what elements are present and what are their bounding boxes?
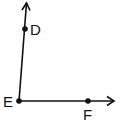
point-d — [22, 26, 28, 32]
label-e: E — [3, 93, 13, 110]
point-e — [16, 98, 22, 104]
label-d: D — [30, 21, 41, 38]
ray-ed — [19, 3, 30, 101]
label-f: F — [83, 106, 92, 123]
point-f — [85, 98, 91, 104]
ray-ef — [19, 97, 114, 106]
angle-diagram: D E F — [0, 0, 120, 126]
